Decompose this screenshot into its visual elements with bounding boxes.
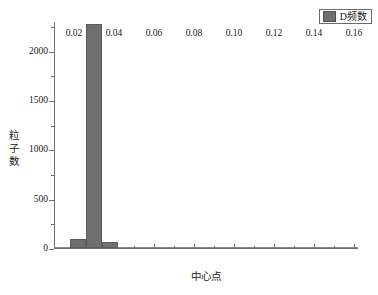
histogram-bar — [294, 247, 310, 248]
x-axis-tick — [314, 244, 315, 249]
x-axis-line — [54, 248, 358, 249]
x-axis-tick-label: 0.12 — [266, 29, 283, 39]
histogram-bar — [70, 239, 86, 248]
histogram-bar — [134, 247, 150, 248]
y-axis-tick — [49, 150, 54, 151]
x-axis-tick — [354, 244, 355, 249]
x-axis-tick-label: 0.16 — [346, 29, 363, 39]
x-axis-minor-tick — [174, 246, 175, 249]
x-axis-minor-tick — [294, 246, 295, 249]
y-axis-minor-tick — [51, 224, 54, 225]
x-axis-tick-label: 0.02 — [66, 29, 83, 39]
y-axis-tick-label: 1000 — [29, 146, 48, 156]
x-axis-minor-tick — [334, 246, 335, 249]
histogram-bar — [278, 247, 294, 248]
histogram-bar — [150, 247, 166, 248]
x-axis-tick — [234, 244, 235, 249]
x-axis-minor-tick — [214, 246, 215, 249]
y-axis-tick — [49, 52, 54, 53]
y-axis-tick — [49, 249, 54, 250]
histogram-chart: D频数 粒子数 0500100015002000 0.020.040.060.0… — [0, 0, 378, 295]
x-axis-tick — [194, 244, 195, 249]
legend-label-d-frequency: D频数 — [340, 12, 367, 22]
histogram-bar — [214, 247, 230, 248]
histogram-bar — [230, 247, 246, 248]
y-axis-minor-tick — [51, 126, 54, 127]
y-axis-tick — [49, 200, 54, 201]
y-axis-tick-label: 0 — [43, 244, 48, 254]
histogram-bar — [86, 24, 102, 248]
x-axis-tick — [114, 244, 115, 249]
x-axis-tick-label: 0.04 — [106, 29, 123, 39]
x-axis-tick — [154, 244, 155, 249]
x-axis-tick-label: 0.10 — [226, 29, 243, 39]
histogram-bar — [262, 247, 278, 248]
histogram-bar — [102, 242, 118, 248]
x-axis-minor-tick — [134, 246, 135, 249]
y-axis-line — [54, 22, 55, 249]
y-axis-minor-tick — [51, 27, 54, 28]
y-axis-tick — [49, 101, 54, 102]
x-axis-tick-label: 0.08 — [186, 29, 203, 39]
histogram-bar — [54, 247, 70, 248]
histogram-bar — [310, 247, 326, 248]
y-axis-minor-tick — [51, 76, 54, 77]
y-axis-tick-label: 500 — [34, 195, 48, 205]
x-axis-tick-label: 0.14 — [306, 29, 323, 39]
y-axis-tick-label: 2000 — [29, 47, 48, 57]
x-axis-tick-label: 0.06 — [146, 29, 163, 39]
histogram-bar — [118, 247, 134, 248]
x-axis-title: 中心点 — [54, 272, 358, 283]
legend-swatch-icon — [323, 11, 336, 22]
x-axis-tick — [74, 244, 75, 249]
x-axis-minor-tick — [94, 246, 95, 249]
histogram-bar — [182, 247, 198, 248]
y-axis-tick-label: 1500 — [29, 96, 48, 106]
y-axis-title: 粒子数 — [8, 128, 21, 167]
x-axis-minor-tick — [254, 246, 255, 249]
plot-area: 0500100015002000 0.020.040.060.080.100.1… — [54, 22, 358, 249]
histogram-bar — [342, 247, 358, 248]
y-axis-minor-tick — [51, 175, 54, 176]
x-axis-tick — [274, 244, 275, 249]
histogram-bar — [198, 247, 214, 248]
